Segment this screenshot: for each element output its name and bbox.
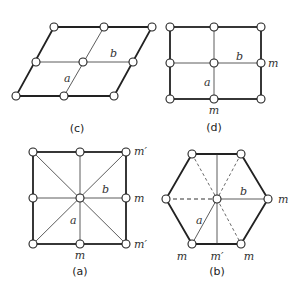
mirror-label-bottom-right: m xyxy=(244,250,254,263)
mirror-label-bottom-right: m′ xyxy=(134,238,147,251)
caption-c: (c) xyxy=(70,122,85,135)
label-a: a xyxy=(70,214,77,227)
caption-d: (d) xyxy=(206,121,222,134)
panel-a-square-lattice: b a m′ m m′ m (a) xyxy=(29,145,147,278)
mirror-label-right: m xyxy=(278,193,288,206)
label-b: b xyxy=(110,47,117,60)
label-a: a xyxy=(64,72,71,85)
panel-b-hexagonal-lattice: b a m m m′ m (b) xyxy=(162,150,288,278)
mirror-label-bottom: m xyxy=(209,104,219,117)
mirror-label-bottom-left: m xyxy=(177,250,187,263)
mirror-label-right: m xyxy=(268,57,278,70)
caption-b: (b) xyxy=(209,265,225,278)
mirror-label-right: m xyxy=(134,192,144,205)
label-b: b xyxy=(102,183,109,196)
panel-d-rectangular-lattice: b a m m (d) xyxy=(166,23,278,134)
panel-c-oblique-lattice: b a (c) xyxy=(12,23,156,135)
label-b: b xyxy=(240,185,247,198)
mirror-label-bottom-mid: m′ xyxy=(211,250,224,263)
lattice-diagram: b a (c) b a m m (d) xyxy=(0,0,304,291)
label-a: a xyxy=(204,76,211,89)
label-b: b xyxy=(236,50,243,63)
mirror-label-top-right: m′ xyxy=(134,145,147,158)
caption-a: (a) xyxy=(72,265,87,278)
mirror-label-bottom: m xyxy=(75,249,85,262)
label-a: a xyxy=(196,214,203,227)
